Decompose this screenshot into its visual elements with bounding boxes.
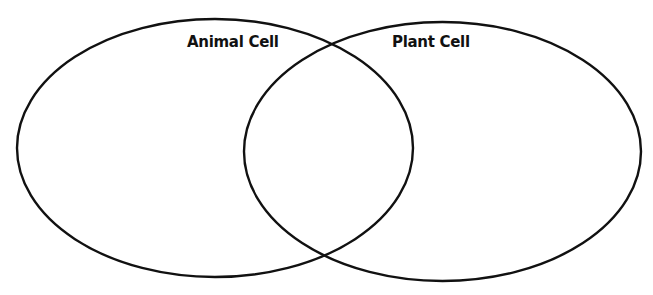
animal-cell-ellipse — [17, 19, 413, 277]
plant-cell-ellipse — [244, 22, 641, 281]
plant-cell-label: Plant Cell — [392, 33, 470, 51]
venn-diagram — [0, 0, 653, 295]
animal-cell-label: Animal Cell — [187, 33, 279, 51]
